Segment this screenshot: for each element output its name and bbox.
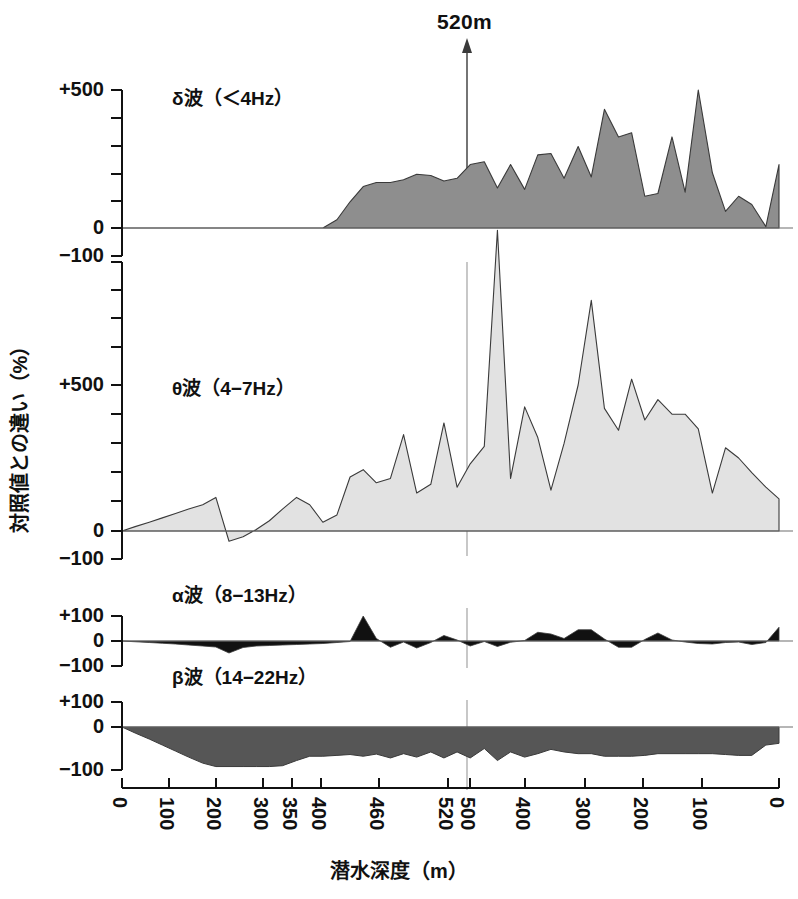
y-tick-label: 0 [8, 715, 104, 738]
up-arrow-icon [462, 38, 472, 53]
x-tick-label: 300 [571, 797, 594, 830]
x-tick-label: 300 [249, 797, 272, 830]
y-tick-label: −100 [8, 758, 104, 781]
panel-caption-theta: θ波（4−7Hz） [172, 373, 295, 400]
x-tick-label: 100 [155, 797, 178, 830]
x-tick-label: 500 [456, 797, 479, 830]
series-delta [122, 90, 779, 228]
y-tick-label: −100 [8, 547, 104, 570]
x-tick-label: 460 [365, 797, 388, 830]
x-tick-label: 100 [688, 797, 711, 830]
x-tick-label: 400 [307, 797, 330, 830]
x-axis-title: 潜水深度（m） [0, 855, 798, 884]
y-tick-label: 0 [8, 629, 104, 652]
y-tick-label: +100 [8, 690, 104, 713]
y-tick-label: +500 [8, 373, 104, 396]
panel-caption-alpha: α波（8−13Hz） [172, 580, 307, 607]
x-tick-label: 0 [108, 797, 131, 808]
panel-caption-beta: β波（14−22Hz） [172, 662, 317, 689]
y-tick-label: −100 [8, 654, 104, 677]
x-tick-label: 200 [629, 797, 652, 830]
x-tick-label: 400 [511, 797, 534, 830]
x-tick-label: 200 [202, 797, 225, 830]
y-tick-label: −100 [8, 244, 104, 267]
y-tick-label: +500 [8, 78, 104, 101]
y-tick-label: 0 [8, 216, 104, 239]
y-tick-label: 0 [8, 519, 104, 542]
figure-root: 520m δ波（＜4Hz） θ波（4−7Hz） α波（8−13Hz） β波（14… [0, 0, 798, 899]
panel-caption-delta: δ波（＜4Hz） [172, 83, 293, 110]
y-tick-label: +100 [8, 604, 104, 627]
x-tick-label: 0 [765, 797, 788, 808]
x-tick-label: 520 [434, 797, 457, 830]
series-alpha [122, 616, 779, 653]
x-tick-label: 350 [278, 797, 301, 830]
eeg-depth-plot [0, 0, 798, 899]
series-beta [122, 727, 779, 767]
